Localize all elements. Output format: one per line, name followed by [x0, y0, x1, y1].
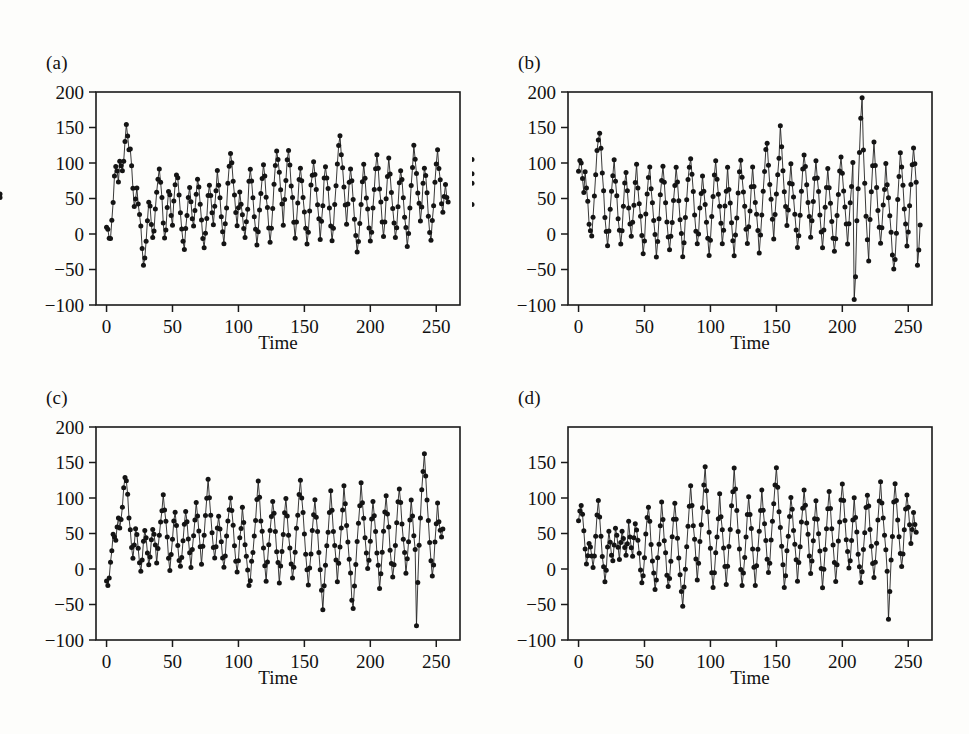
- series-point: [635, 538, 640, 543]
- series-point: [401, 195, 406, 200]
- series-polyline: [579, 98, 921, 300]
- series-point: [240, 212, 245, 217]
- series-point: [588, 544, 593, 549]
- series-point: [306, 582, 311, 587]
- series-point: [601, 188, 606, 193]
- series-point: [105, 583, 110, 588]
- series-point: [742, 555, 747, 560]
- ytick-label: 50: [537, 188, 556, 209]
- ytick-label: 200: [56, 417, 85, 438]
- series-point: [413, 547, 418, 552]
- series-point: [837, 519, 842, 524]
- series-point: [666, 584, 671, 589]
- series-point: [152, 228, 157, 233]
- series-point: [846, 221, 851, 226]
- series-point: [874, 541, 879, 546]
- series-point: [422, 451, 427, 456]
- series-point: [646, 175, 651, 180]
- series-point: [745, 241, 750, 246]
- series-point: [335, 162, 340, 167]
- series-point: [911, 510, 916, 515]
- series-point: [716, 192, 721, 197]
- series-point: [262, 174, 267, 179]
- series-point: [427, 230, 432, 235]
- series-point: [634, 527, 639, 532]
- series-point: [860, 569, 865, 574]
- series-point: [856, 186, 861, 191]
- series-point: [417, 543, 422, 548]
- series-point: [261, 162, 266, 167]
- series-point: [684, 544, 689, 549]
- series-point: [875, 208, 880, 213]
- series-point: [120, 505, 125, 510]
- series-point: [121, 159, 126, 164]
- series-point: [732, 465, 737, 470]
- series-point: [409, 183, 414, 188]
- series-point: [879, 501, 884, 506]
- series-point: [250, 195, 255, 200]
- xtick-label: 0: [574, 651, 584, 672]
- series-point: [754, 212, 759, 217]
- series-point: [889, 558, 894, 563]
- series-point: [845, 242, 850, 247]
- series-point: [642, 239, 647, 244]
- series-point: [736, 529, 741, 534]
- ytick-label: 100: [528, 488, 557, 509]
- series-point: [295, 201, 300, 206]
- series-point: [0, 195, 3, 200]
- series-point: [181, 538, 186, 543]
- series-point: [225, 519, 230, 524]
- series-point: [315, 529, 320, 534]
- series-point: [693, 557, 698, 562]
- series-point: [641, 251, 646, 256]
- series-point: [842, 518, 847, 523]
- series-point: [136, 546, 141, 551]
- series-point: [754, 563, 759, 568]
- series-point: [435, 147, 440, 152]
- series-point: [879, 225, 884, 230]
- series-point: [290, 576, 295, 581]
- series-point: [643, 532, 648, 537]
- series-point: [856, 552, 861, 557]
- series-point: [676, 555, 681, 560]
- series-point: [274, 149, 279, 154]
- series-point: [848, 200, 853, 205]
- series-point: [774, 465, 779, 470]
- series-point: [183, 509, 188, 514]
- series-point: [820, 585, 825, 590]
- series-point: [283, 178, 288, 183]
- series-point: [613, 179, 618, 184]
- series-point: [287, 162, 292, 167]
- panel-c-series: [104, 451, 445, 628]
- series-point: [411, 533, 416, 538]
- series-point: [678, 572, 683, 577]
- series-point: [664, 219, 669, 224]
- series-point: [431, 203, 436, 208]
- ytick-label: 150: [528, 117, 557, 138]
- series-point: [305, 242, 310, 247]
- series-point: [711, 585, 716, 590]
- series-point: [323, 563, 328, 568]
- series-point: [185, 519, 190, 524]
- series-point: [410, 514, 415, 519]
- series-point: [762, 521, 767, 526]
- series-point: [729, 220, 734, 225]
- series-point: [274, 549, 279, 554]
- series-point: [629, 545, 634, 550]
- series-point: [912, 161, 917, 166]
- series-point: [401, 537, 406, 542]
- series-point: [293, 236, 298, 241]
- series-point: [873, 560, 878, 565]
- series-point: [657, 216, 662, 221]
- series-point: [705, 509, 710, 514]
- series-point: [799, 189, 804, 194]
- panel-d-series: [576, 464, 919, 621]
- series-point: [365, 207, 370, 212]
- series-point: [130, 556, 135, 561]
- series-point: [279, 202, 284, 207]
- series-point: [807, 553, 812, 558]
- series-point: [696, 231, 701, 236]
- series-point: [576, 518, 581, 523]
- series-point: [865, 493, 870, 498]
- series-point: [324, 543, 329, 548]
